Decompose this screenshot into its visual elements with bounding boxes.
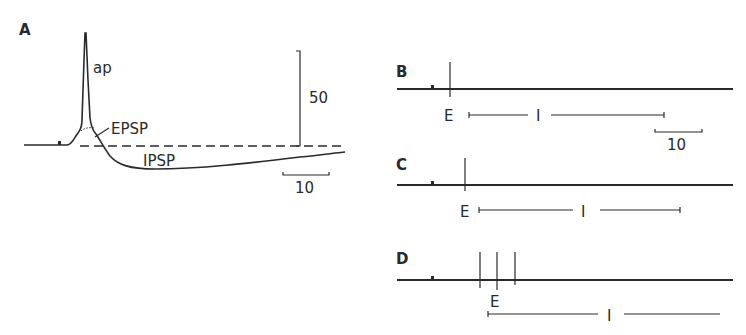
time-scale-bar-b [655,129,702,132]
panel-a: A ap EPSP IPSP 50 10 [19,21,345,197]
ap-label: ap [93,59,112,77]
ipsp-label: IPSP [143,152,175,170]
stimulus-marker-d [431,276,434,280]
panel-label-d: D [396,250,408,268]
horizontal-scale-label: 10 [295,179,314,197]
membrane-potential-trace [24,33,345,169]
inhibition-label-d: I [607,307,611,325]
stimulus-marker-b [431,85,434,89]
time-scale-label-b: 10 [667,136,686,154]
epsp-leader-line [95,128,109,137]
epsp-label: EPSP [111,120,148,138]
panel-b: B E I 10 [396,62,733,154]
vertical-scale-bar [296,51,300,146]
panel-c: C E I [396,156,733,221]
panel-label-a: A [19,21,31,39]
inhibition-label-c: I [581,203,585,221]
panel-label-b: B [396,63,407,81]
excitation-label-c: E [460,203,469,221]
stimulus-marker-c [431,181,434,185]
excitation-label-b: E [444,107,453,125]
vertical-scale-label: 50 [309,89,328,107]
figure-canvas: A ap EPSP IPSP 50 10 B E I [0,0,746,335]
horizontal-scale-bar [283,172,329,175]
panel-label-c: C [396,156,407,174]
excitation-label-d: E [490,293,499,311]
panel-d: D E I [396,250,733,325]
inhibition-label-b: I [536,107,540,125]
